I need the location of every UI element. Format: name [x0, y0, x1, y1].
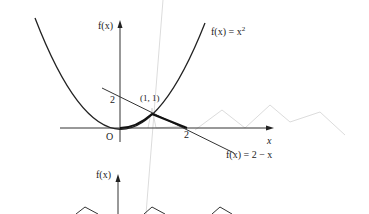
parabola-label: f(x) = x2 [211, 25, 246, 38]
triangle-wave [76, 207, 232, 214]
x-axis-arrow-icon [266, 126, 274, 131]
x-axis-label: x [266, 135, 272, 146]
y-axis-arrow-icon [118, 20, 123, 28]
intersection-point-label: (1, 1) [140, 93, 160, 103]
figure-canvas: f(x) x O 2 2 (1, 1) f(x) = x2 f(x) = 2 −… [0, 0, 369, 214]
ghost-marks [146, 0, 345, 214]
top-y-axis-label: f(x) [98, 20, 113, 32]
bottom-graph: f(x) [76, 169, 232, 214]
bottom-y-axis-label: f(x) [96, 169, 111, 181]
origin-label: O [106, 131, 113, 142]
bottom-y-axis-arrow-icon [116, 174, 121, 182]
top-graph: f(x) x O 2 2 (1, 1) f(x) = x2 f(x) = 2 −… [35, 18, 274, 161]
y-tick-label: 2 [110, 94, 115, 105]
x-tick-label: 2 [184, 129, 189, 140]
line-label: f(x) = 2 − x [226, 149, 272, 161]
